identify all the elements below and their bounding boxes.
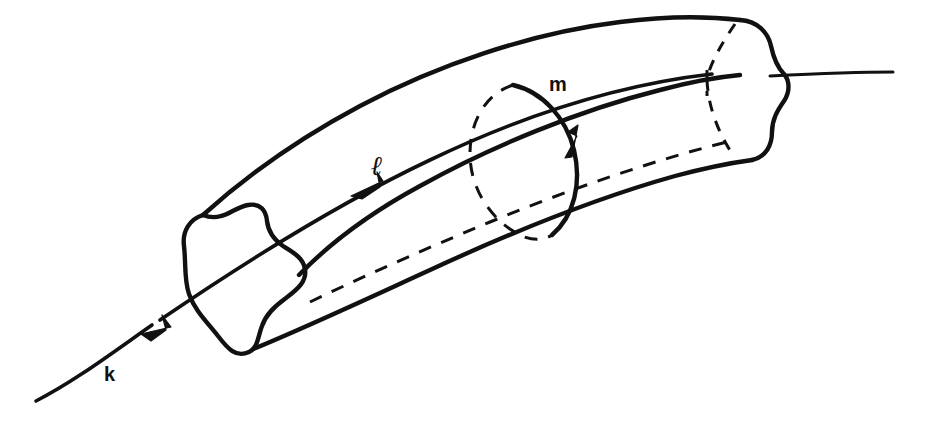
right-end-cap-group (707, 20, 789, 160)
knot-axis-k-group (36, 72, 893, 401)
tube-diagram-svg (0, 0, 929, 426)
right-end-cap-outline (740, 20, 789, 160)
label-knot-axis-k: k (104, 364, 115, 384)
label-meridian-m: m (549, 74, 567, 94)
right-end-cap-hidden-arc-lower (707, 80, 731, 152)
longitude-l-group (299, 75, 740, 302)
knot-axis-k-lower-tail (36, 325, 152, 401)
knot-axis-k-core (160, 74, 712, 320)
left-end-cap-group (184, 205, 306, 354)
tube-top-edge (203, 17, 740, 215)
left-end-cap-lobed-outline (184, 205, 306, 354)
right-end-cap-hidden-arc-upper (707, 24, 735, 78)
tube-bottom-edge (253, 160, 752, 349)
meridian-m-back-dashed (470, 85, 552, 239)
label-longitude-l: ℓ (371, 152, 383, 179)
meridian-m-front-solid (513, 85, 577, 235)
knot-axis-k-upper-tail (770, 72, 893, 76)
figure-canvas: k ℓ m (0, 0, 929, 426)
